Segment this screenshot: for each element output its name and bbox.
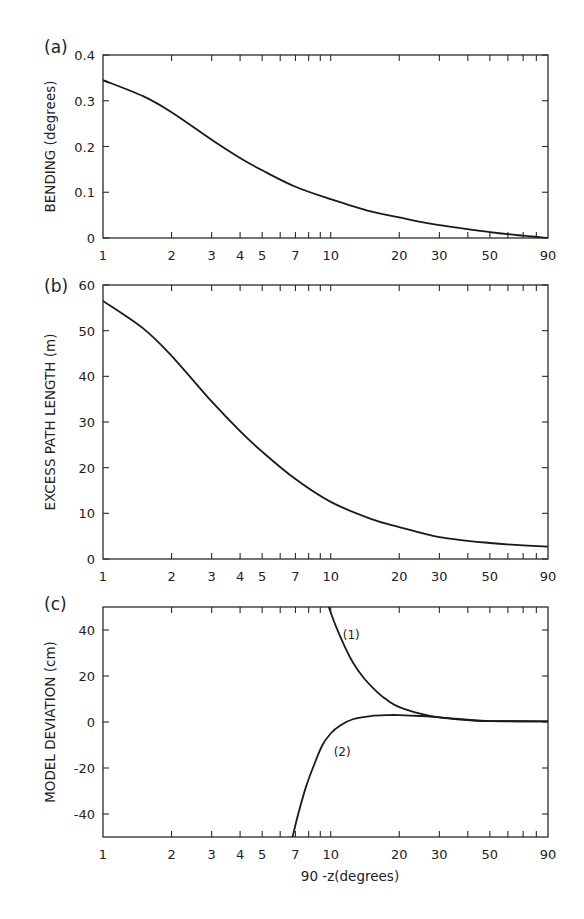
y-axis-title: BENDING (degrees): [42, 81, 58, 213]
plot-frame: [103, 55, 548, 238]
panel-c-model-deviation: (c) 1234571020305090-40-2002040MODEL DEV…: [42, 594, 556, 862]
x-tick-label: 3: [208, 847, 216, 862]
x-tick-label: 7: [291, 847, 299, 862]
panel-label: (c): [44, 594, 67, 614]
x-tick-label: 50: [482, 569, 499, 584]
panel-label: (a): [44, 37, 68, 57]
x-tick-label: 10: [322, 569, 339, 584]
y-tick-label: 0.3: [74, 94, 95, 109]
x-tick-label: 4: [236, 847, 244, 862]
x-tick-label: 5: [258, 248, 266, 263]
y-tick-label: 20: [78, 461, 95, 476]
x-tick-label: 5: [258, 569, 266, 584]
x-tick-label: 20: [391, 847, 408, 862]
x-tick-label: 90: [540, 847, 557, 862]
x-tick-label: 20: [391, 248, 408, 263]
x-tick-label: 4: [236, 248, 244, 263]
y-tick-label: 30: [78, 415, 95, 430]
x-tick-label: 3: [208, 248, 216, 263]
y-tick-label: 60: [78, 278, 95, 293]
curve-label: (1): [343, 628, 360, 642]
x-tick-label: 2: [167, 248, 175, 263]
y-tick-label: 0.4: [74, 48, 95, 63]
y-tick-label: 40: [78, 623, 95, 638]
x-tick-label: 1: [99, 569, 107, 584]
x-tick-label: 50: [482, 248, 499, 263]
plot-frame: [103, 607, 548, 837]
x-tick-label: 90: [540, 248, 557, 263]
y-tick-label: -20: [74, 761, 95, 776]
x-tick-label: 30: [431, 847, 448, 862]
x-tick-label: 4: [236, 569, 244, 584]
x-tick-label: 10: [322, 248, 339, 263]
x-tick-label: 7: [291, 569, 299, 584]
y-tick-label: 0.2: [74, 140, 95, 155]
y-tick-label: 50: [78, 324, 95, 339]
x-tick-label: 2: [167, 847, 175, 862]
data-curve: [103, 301, 548, 547]
y-tick-label: 10: [78, 506, 95, 521]
x-tick-label: 30: [431, 569, 448, 584]
data-curve: [103, 80, 548, 238]
y-tick-label: 0.1: [74, 185, 95, 200]
plot-frame: [103, 285, 548, 559]
x-tick-label: 20: [391, 569, 408, 584]
y-tick-label: 0: [87, 231, 95, 246]
data-curve: [293, 715, 548, 837]
x-tick-label: 10: [322, 847, 339, 862]
x-tick-label: 1: [99, 248, 107, 263]
x-tick-label: 5: [258, 847, 266, 862]
panel-b-excess-path-length: (b) 12345710203050900102030405060EXCESS …: [42, 276, 556, 584]
y-tick-label: -40: [74, 807, 95, 822]
x-tick-label: 90: [540, 569, 557, 584]
x-tick-label: 2: [167, 569, 175, 584]
x-tick-label: 7: [291, 248, 299, 263]
y-tick-label: 40: [78, 369, 95, 384]
x-tick-label: 3: [208, 569, 216, 584]
y-tick-label: 0: [87, 715, 95, 730]
x-tick-label: 30: [431, 248, 448, 263]
panel-label: (b): [44, 276, 68, 296]
y-axis-title: EXCESS PATH LENGTH (m): [42, 334, 58, 511]
panel-a-bending: (a) 123457102030509000.10.20.30.4BENDING…: [42, 37, 556, 263]
curve-label: (2): [334, 745, 351, 759]
x-axis-title: 90 -z(degrees): [301, 868, 399, 884]
figure: (a) 123457102030509000.10.20.30.4BENDING…: [0, 0, 584, 919]
y-tick-label: 20: [78, 669, 95, 684]
y-tick-label: 0: [87, 552, 95, 567]
x-tick-label: 1: [99, 847, 107, 862]
x-tick-label: 50: [482, 847, 499, 862]
y-axis-title: MODEL DEVIATION (cm): [42, 641, 58, 803]
data-curve: [329, 607, 548, 721]
